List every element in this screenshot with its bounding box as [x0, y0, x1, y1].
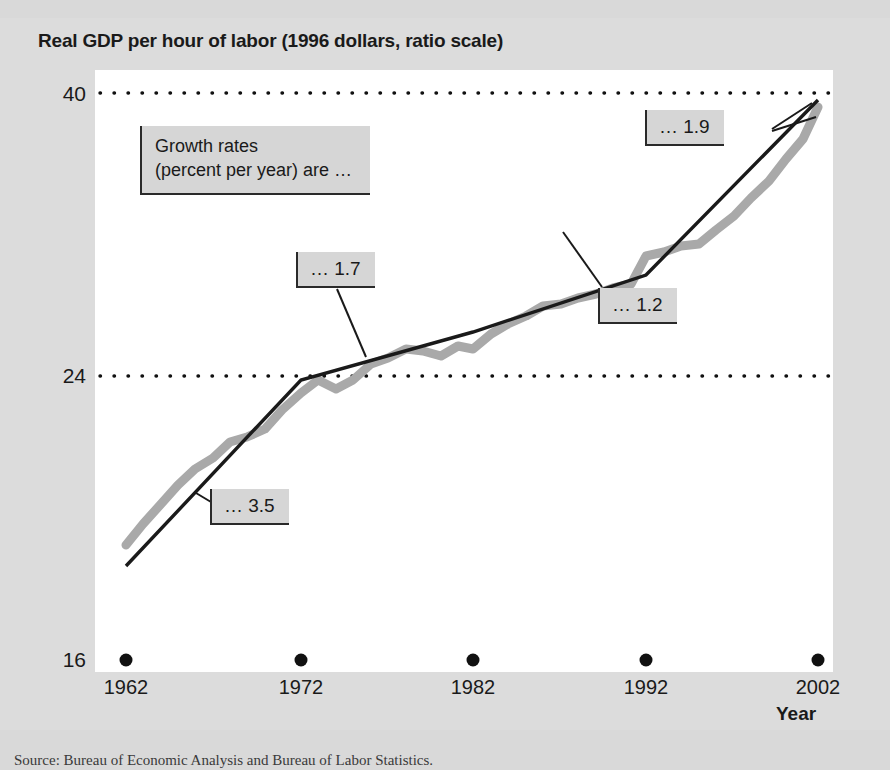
x-tick-dot-1982: [467, 654, 480, 667]
leader-line-1-2: [563, 232, 602, 287]
legend-line-2: (percent per year) are …: [155, 159, 352, 183]
callout-rate-1-7: … 1.7: [296, 252, 375, 288]
x-tick-dot-1972: [295, 654, 308, 667]
callout-rate-1-2: … 1.2: [598, 288, 677, 324]
figure-container: Real GDP per hour of labor (1996 dollars…: [0, 0, 890, 770]
callout-rate-1-9: … 1.9: [645, 110, 724, 146]
chart-svg: [0, 0, 890, 770]
legend-box: Growth rates (percent per year) are …: [140, 126, 370, 195]
leader-line-1-7: [337, 289, 366, 357]
x-tick-dot-1992: [640, 654, 653, 667]
source-note: Source: Bureau of Economic Analysis and …: [14, 752, 433, 770]
callout-rate-3-5: … 3.5: [210, 489, 289, 525]
x-tick-dot-1962: [120, 654, 133, 667]
x-tick-dot-2002: [812, 654, 825, 667]
legend-line-1: Growth rates: [155, 135, 352, 159]
